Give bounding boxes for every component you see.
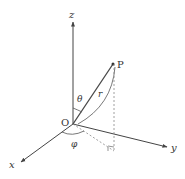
phi-label: φ xyxy=(71,139,78,149)
spherical-coordinates-diagram: z y x O P r θ φ xyxy=(0,0,185,179)
radius-label: r xyxy=(98,89,103,99)
theta-label: θ xyxy=(77,94,83,104)
x-axis xyxy=(21,124,73,162)
phi-arc xyxy=(62,131,84,134)
origin-label: O xyxy=(61,117,69,128)
theta-arc xyxy=(73,108,82,112)
y-axis xyxy=(73,124,167,147)
radius-arc xyxy=(78,67,115,124)
right-angle-marker-top xyxy=(108,146,114,147)
diagram-svg: z y x O P r θ φ xyxy=(0,0,185,179)
point-label: P xyxy=(117,59,124,70)
x-axis-label: x xyxy=(9,159,15,170)
y-axis-label: y xyxy=(170,142,177,153)
z-axis-label: z xyxy=(68,9,75,20)
ground-projection xyxy=(73,124,114,151)
